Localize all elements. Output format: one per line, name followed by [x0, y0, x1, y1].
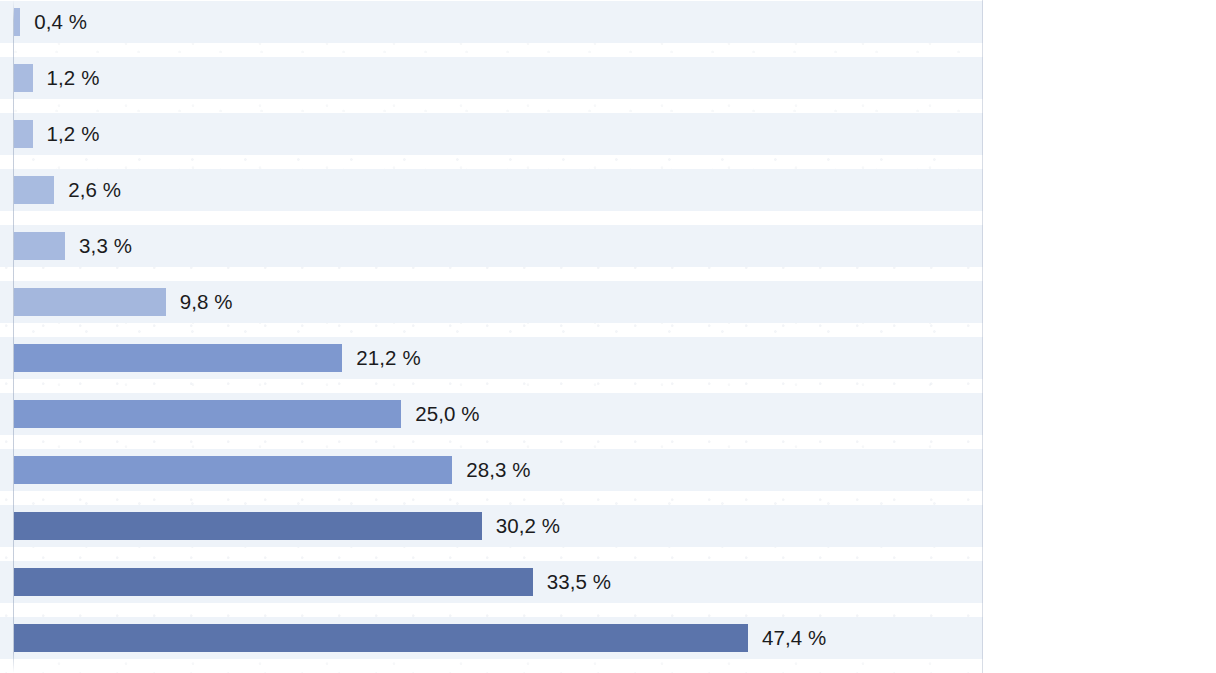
plot-area: 0,4 %1,2 %1,2 %2,6 %3,3 %9,8 %21,2 %25,0…	[0, 0, 983, 673]
row-background-band	[0, 1, 983, 43]
bar	[14, 568, 533, 596]
bar-value-label: 2,6 %	[68, 178, 121, 202]
table-row: 25,0 %	[0, 393, 983, 435]
bar-value-label: 1,2 %	[47, 66, 100, 90]
bar-value-label: 21,2 %	[356, 346, 420, 370]
category-label-area: HandballSquash / BadmintonTennis / Tisch…	[983, 0, 1216, 673]
value-axis-line	[13, 0, 14, 673]
table-row: 0,4 %	[0, 1, 983, 43]
table-row: 9,8 %	[0, 281, 983, 323]
table-row: 1,2 %	[0, 113, 983, 155]
row-background-band	[0, 169, 983, 211]
table-row: 47,4 %	[0, 617, 983, 659]
bar	[14, 288, 166, 316]
bar	[14, 456, 452, 484]
row-background-band	[0, 225, 983, 267]
bar	[14, 176, 54, 204]
bar	[14, 120, 33, 148]
table-row: 3,3 %	[0, 225, 983, 267]
table-row: 33,5 %	[0, 561, 983, 603]
bar	[14, 344, 342, 372]
bar-chart: 0,4 %1,2 %1,2 %2,6 %3,3 %9,8 %21,2 %25,0…	[0, 0, 1216, 673]
bar	[14, 512, 482, 540]
table-row: 30,2 %	[0, 505, 983, 547]
bar	[14, 400, 401, 428]
bar	[14, 624, 748, 652]
bar-value-label: 33,5 %	[547, 570, 611, 594]
table-row: 28,3 %	[0, 449, 983, 491]
row-background-band	[0, 113, 983, 155]
table-row: 1,2 %	[0, 57, 983, 99]
bar-value-label: 3,3 %	[79, 234, 132, 258]
bar-value-label: 9,8 %	[180, 290, 233, 314]
bar-value-label: 28,3 %	[466, 458, 530, 482]
bar	[14, 232, 65, 260]
bar-value-label: 30,2 %	[496, 514, 560, 538]
bar	[14, 64, 33, 92]
table-row: 2,6 %	[0, 169, 983, 211]
bar-value-label: 25,0 %	[415, 402, 479, 426]
bar	[14, 8, 20, 36]
row-background-band	[0, 57, 983, 99]
bar-value-label: 47,4 %	[762, 626, 826, 650]
bar-value-label: 1,2 %	[47, 122, 100, 146]
table-row: 21,2 %	[0, 337, 983, 379]
bar-value-label: 0,4 %	[34, 10, 87, 34]
